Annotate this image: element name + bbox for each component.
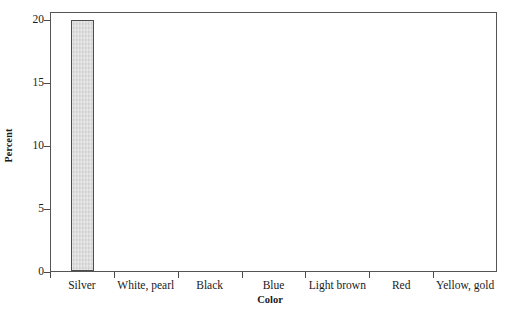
y-axis-title-text: Percent bbox=[4, 128, 15, 162]
x-axis-tick-mark bbox=[242, 272, 243, 278]
y-axis-tick-label: 20 bbox=[18, 14, 44, 26]
y-axis-title: Percent bbox=[0, 100, 18, 190]
x-axis-tick-mark bbox=[369, 272, 370, 278]
y-axis-tick-label: 15 bbox=[18, 77, 44, 89]
x-axis-tick-mark bbox=[50, 272, 51, 278]
x-axis-category-label: Blue bbox=[263, 279, 285, 292]
x-axis-category-label: Light brown bbox=[309, 279, 366, 292]
x-axis-title: Color bbox=[0, 294, 506, 305]
x-axis-tick-mark bbox=[114, 272, 115, 278]
x-axis-tick-mark bbox=[305, 272, 306, 278]
bar bbox=[71, 20, 94, 271]
plot-area bbox=[50, 12, 497, 272]
y-axis-tick-label: 0 bbox=[18, 266, 44, 278]
x-axis-category-label: Black bbox=[196, 279, 223, 292]
x-axis-title-text: Color bbox=[257, 294, 283, 305]
x-axis-category-label: Red bbox=[392, 279, 411, 292]
y-axis-tick-label: 10 bbox=[18, 140, 44, 152]
x-axis-category-label: White, pearl bbox=[117, 279, 174, 292]
y-axis-tick-label: 5 bbox=[18, 203, 44, 215]
x-axis-tick-mark bbox=[433, 272, 434, 278]
x-axis-category-label: Silver bbox=[68, 279, 95, 292]
y-axis-tick-labels: 05101520 bbox=[18, 0, 44, 313]
x-axis-tick-mark bbox=[178, 272, 179, 278]
x-axis-category-label: Yellow, gold bbox=[436, 279, 494, 292]
bar-chart-figure: Percent 05101520 SilverWhite, pearlBlack… bbox=[0, 0, 506, 313]
